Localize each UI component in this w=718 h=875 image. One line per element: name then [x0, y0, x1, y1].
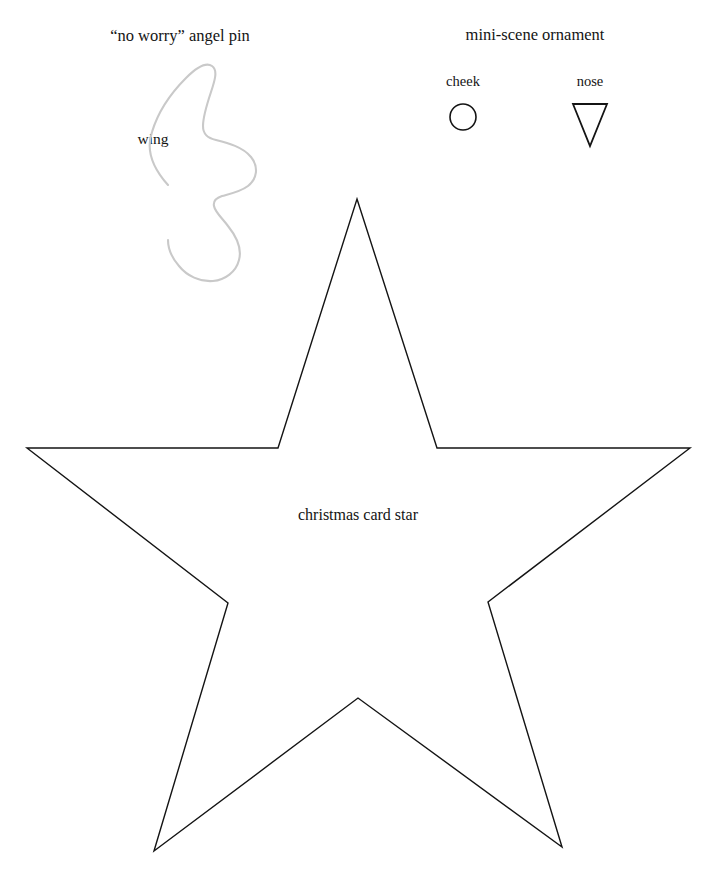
christmas-card-star-label: christmas card star: [248, 507, 468, 523]
worksheet-canvas: “no worry” angel pin mini-scene ornament…: [0, 0, 718, 875]
cheek-circle-shape: [450, 104, 476, 130]
cheek-label: cheek: [405, 74, 521, 89]
wing-label: wing: [113, 131, 193, 147]
mini-scene-ornament-title: mini-scene ornament: [400, 27, 670, 44]
angel-pin-title: “no worry” angel pin: [0, 28, 360, 45]
nose-label: nose: [532, 74, 648, 89]
template-shapes-artwork: [0, 0, 718, 875]
wing-outline-shape: [150, 65, 256, 281]
five-point-star-shape: [27, 199, 690, 851]
nose-triangle-shape: [573, 104, 607, 146]
